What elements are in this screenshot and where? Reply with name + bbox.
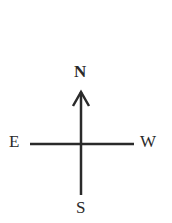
east-label: E — [9, 133, 19, 150]
north-label: N — [74, 63, 86, 80]
compass-diagram — [0, 0, 172, 223]
south-label: S — [76, 199, 85, 216]
west-label: W — [140, 133, 156, 150]
